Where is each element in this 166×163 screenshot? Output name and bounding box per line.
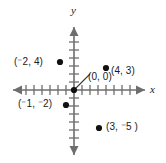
data-point-label-neg1-neg2: (⁻1, ⁻2) xyxy=(18,99,52,109)
data-point-label-4-3: (4, 3) xyxy=(111,66,135,76)
data-point-3-neg5 xyxy=(96,125,102,131)
data-point-origin xyxy=(71,87,77,93)
x-axis-right-arrowhead xyxy=(136,86,145,95)
data-point-label-origin: (0, 0) xyxy=(88,72,112,82)
data-point-neg2-4 xyxy=(57,59,63,65)
data-point-label-3-neg5: (3, ⁻5 ) xyxy=(106,122,138,132)
y-axis-down-arrowhead xyxy=(70,146,79,155)
coordinate-plane-svg xyxy=(0,0,166,163)
y-axis-up-arrowhead xyxy=(70,27,79,36)
data-point-neg1-neg2 xyxy=(63,102,69,108)
x-axis-label: x xyxy=(150,84,155,95)
x-axis-left-arrowhead xyxy=(13,86,22,95)
coordinate-plane-figure: (⁻2, 4) (4, 3) (0, 0) (⁻1, ⁻2) (3, ⁻5 ) … xyxy=(0,0,166,163)
data-point-label-neg2-4: (⁻2, 4) xyxy=(14,57,43,67)
y-axis-label: y xyxy=(71,5,76,16)
